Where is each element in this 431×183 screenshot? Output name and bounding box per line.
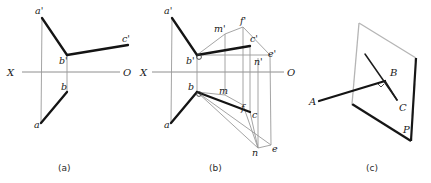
label-axis-x-b: X xyxy=(139,67,148,78)
caption-c: (c) xyxy=(366,163,378,173)
vertex-mark-B xyxy=(378,84,384,87)
segment-a-b-b xyxy=(171,92,197,123)
captions-group: (a) (b) (c) xyxy=(58,163,378,173)
label-c-prime-a: c' xyxy=(122,33,130,44)
label-a-b: a xyxy=(164,119,170,130)
projector-line-e xyxy=(270,55,271,145)
segment-b-prime-c-prime xyxy=(67,45,128,55)
segment-a-prime-b-prime-b xyxy=(172,18,197,55)
segment-b-prime-c-prime-b xyxy=(197,46,250,55)
label-b-prime-b: b' xyxy=(186,55,195,66)
label-a-a: a xyxy=(34,119,40,130)
segment-a-b xyxy=(41,92,67,123)
figure-board: a' b' c' b a X O xyxy=(0,0,431,183)
caption-b: (b) xyxy=(209,163,222,173)
label-a-prime-b: a' xyxy=(164,5,172,16)
label-n-b: n xyxy=(252,147,258,158)
label-c-prime-b: c' xyxy=(250,33,258,44)
label-plane-P: P xyxy=(402,124,410,135)
label-axis-o-a: O xyxy=(123,67,131,78)
segment-a-prime-b-prime xyxy=(42,18,67,55)
panel-c-group: A B C P xyxy=(308,23,416,141)
label-e-b: e xyxy=(272,143,278,154)
aux-edge-mp-fp xyxy=(225,27,243,34)
label-A-c: A xyxy=(308,96,316,107)
label-a-prime-a: a' xyxy=(35,5,43,16)
label-m-b: m xyxy=(219,85,228,96)
panel-b-group: a' b' c' m' f' n' e' b a c m f n e X O xyxy=(139,5,295,158)
label-c-b: c xyxy=(252,109,258,120)
label-n-prime-b: n' xyxy=(254,56,263,67)
label-e-prime-b: e' xyxy=(268,48,276,59)
projector-line-a-b xyxy=(171,18,172,123)
projector-line-a xyxy=(41,18,42,123)
label-B-c: B xyxy=(389,67,397,78)
aux-edge-b-n xyxy=(197,92,258,148)
plane-edge-top xyxy=(359,23,416,58)
label-m-prime-b: m' xyxy=(214,23,226,34)
plane-edge-right xyxy=(411,58,416,141)
label-b-prime-a: b' xyxy=(59,55,68,66)
caption-a: (a) xyxy=(58,163,71,173)
technical-drawing-svg: a' b' c' b a X O xyxy=(0,0,431,183)
label-f-prime-b: f' xyxy=(239,15,246,26)
label-b-a: b xyxy=(61,81,67,92)
label-axis-x-a: X xyxy=(6,67,15,78)
label-b-b: b xyxy=(188,81,194,92)
panel-a-group: a' b' c' b a X O xyxy=(6,5,131,130)
label-C-c: C xyxy=(399,102,407,113)
label-axis-o-b: O xyxy=(287,67,295,78)
aux-edge-n-e xyxy=(258,145,271,148)
